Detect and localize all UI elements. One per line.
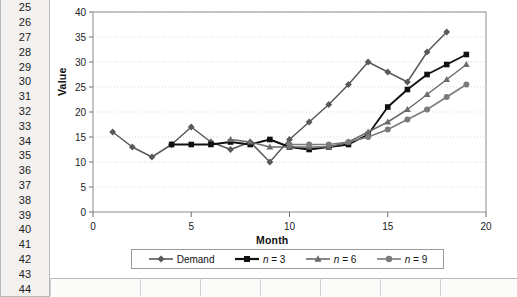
diamond-icon: [148, 253, 174, 265]
sheet-empty-row-band[interactable]: [50, 278, 517, 297]
row-header-label: 39: [19, 209, 32, 221]
y-axis-tick-label: 20: [75, 107, 87, 118]
row-header-label: 42: [19, 253, 32, 265]
x-axis-tick-label: 10: [284, 221, 296, 232]
data-point-marker: [208, 142, 214, 148]
data-point-marker: [326, 142, 332, 148]
sheet-column-divider: [260, 278, 261, 296]
sheet-column-divider: [440, 278, 441, 296]
data-point-marker: [385, 127, 391, 133]
row-header-label: 35: [19, 149, 32, 161]
row-header-label: 43: [19, 268, 32, 280]
sheet-column-divider: [380, 278, 381, 296]
data-point-marker: [424, 107, 430, 113]
row-header-label: 34: [19, 135, 32, 147]
legend-item-n-6[interactable]: n = 6: [305, 253, 357, 265]
y-axis-title: Value: [56, 68, 68, 96]
row-header-label: 28: [19, 46, 32, 58]
legend-item-label: n = 3: [263, 254, 286, 265]
row-header-34[interactable]: 34: [0, 133, 50, 149]
row-header-36[interactable]: 36: [0, 163, 50, 179]
row-header-label: 27: [19, 31, 32, 43]
data-point-marker: [365, 134, 371, 140]
row-header-label: 26: [19, 16, 32, 28]
row-header-43[interactable]: 43: [0, 266, 50, 282]
legend-item-demand[interactable]: Demand: [148, 253, 215, 265]
row-header-label: 40: [19, 223, 32, 235]
row-header-label: 32: [19, 105, 32, 117]
x-axis-tick-label: 5: [188, 221, 194, 232]
x-axis-title: Month: [256, 234, 289, 246]
y-axis-tick-label: 5: [80, 182, 86, 193]
data-point-marker: [188, 142, 194, 148]
legend-item-n-9[interactable]: n = 9: [376, 253, 428, 265]
row-header-38[interactable]: 38: [0, 192, 50, 208]
row-header-label: 36: [19, 164, 32, 176]
sheet-column-divider: [200, 278, 201, 296]
data-point-marker: [227, 146, 234, 153]
row-header-label: 29: [19, 61, 32, 73]
row-header-29[interactable]: 29: [0, 59, 50, 75]
y-axis-tick-label: 0: [80, 207, 86, 218]
row-header-27[interactable]: 27: [0, 30, 50, 46]
row-header-35[interactable]: 35: [0, 148, 50, 164]
row-header-30[interactable]: 30: [0, 74, 50, 90]
row-header-26[interactable]: 26: [0, 15, 50, 31]
row-header-label: 44: [19, 283, 32, 295]
row-header-40[interactable]: 40: [0, 222, 50, 238]
row-header-label: 31: [19, 90, 32, 102]
row-header-31[interactable]: 31: [0, 89, 50, 105]
row-header-label: 33: [19, 120, 32, 132]
data-point-marker: [424, 72, 430, 78]
sheet-column-divider: [140, 278, 141, 296]
triangle-icon: [305, 253, 331, 265]
legend-item-n-3[interactable]: n = 3: [234, 253, 286, 265]
data-point-marker: [306, 142, 312, 148]
data-point-marker: [384, 118, 391, 124]
y-axis-tick-label: 10: [75, 157, 87, 168]
data-point-marker: [169, 142, 175, 148]
row-header-label: 38: [19, 194, 32, 206]
y-axis-tick-label: 15: [75, 132, 87, 143]
data-point-marker: [404, 117, 410, 123]
row-header-label: 37: [19, 179, 32, 191]
series-line: [231, 65, 467, 148]
row-header-28[interactable]: 28: [0, 44, 50, 60]
legend-item-label: n = 9: [405, 254, 428, 265]
circle-icon: [376, 253, 402, 265]
row-header-33[interactable]: 33: [0, 118, 50, 134]
row-header-42[interactable]: 42: [0, 252, 50, 268]
data-point-marker: [405, 87, 411, 93]
row-header-32[interactable]: 32: [0, 104, 50, 120]
data-point-marker: [444, 94, 450, 100]
series-line: [290, 85, 467, 145]
data-point-marker: [385, 104, 391, 110]
row-header-39[interactable]: 39: [0, 207, 50, 223]
x-axis-tick-label: 20: [480, 221, 492, 232]
x-axis-tick-label: 0: [90, 221, 96, 232]
row-header-label: 30: [19, 75, 32, 87]
chart-legend[interactable]: Demandn = 3n = 6n = 9: [131, 249, 444, 269]
row-header-label: 41: [19, 238, 32, 250]
legend-item-label: n = 6: [334, 254, 357, 265]
moving-average-line-chart[interactable]: 051015202530354005101520 Value Month Dem…: [50, 0, 517, 278]
data-point-marker: [444, 62, 450, 68]
data-point-marker: [464, 52, 470, 58]
y-axis-tick-label: 30: [75, 57, 87, 68]
row-header-label: 25: [19, 1, 32, 13]
x-axis-tick-label: 15: [382, 221, 394, 232]
data-point-marker: [463, 82, 469, 88]
row-header-37[interactable]: 37: [0, 178, 50, 194]
sheet-column-divider: [320, 278, 321, 296]
y-axis-tick-label: 35: [75, 32, 87, 43]
data-point-marker: [384, 69, 391, 76]
y-axis-tick-label: 40: [75, 7, 87, 18]
row-header-41[interactable]: 41: [0, 237, 50, 253]
legend-item-label: Demand: [177, 254, 215, 265]
row-header-44[interactable]: 44: [0, 281, 50, 297]
row-header-25[interactable]: 25: [0, 0, 50, 16]
sheet-column-divider: [50, 278, 51, 296]
series-line: [172, 55, 467, 150]
data-point-marker: [345, 139, 351, 145]
